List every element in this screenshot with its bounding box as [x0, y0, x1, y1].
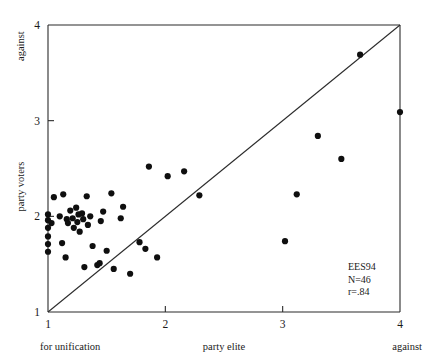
data-point: [51, 194, 57, 200]
data-point: [146, 163, 152, 169]
data-point: [196, 192, 202, 198]
plot-canvas: 12341234party votersparty eliteagainstfo…: [0, 0, 427, 364]
data-point: [79, 210, 85, 216]
y-axis-tick-label: 3: [34, 115, 40, 127]
scatter-plot-figure: 12341234party votersparty eliteagainstfo…: [0, 0, 427, 364]
data-point: [67, 207, 73, 213]
data-point: [181, 168, 187, 174]
data-point: [97, 260, 103, 266]
data-point: [81, 264, 87, 270]
x-axis-left-end-label: for unification: [40, 341, 101, 352]
data-point: [142, 246, 148, 252]
y-axis-tick-label: 2: [34, 210, 40, 222]
data-point: [100, 208, 106, 214]
data-point: [154, 254, 160, 260]
data-point: [104, 248, 110, 254]
data-point: [315, 133, 321, 139]
x-axis-title: party elite: [203, 341, 246, 352]
data-point: [87, 213, 93, 219]
data-point: [111, 266, 117, 272]
data-point: [120, 204, 126, 210]
data-point: [338, 156, 344, 162]
x-axis-tick-label: 4: [397, 318, 403, 330]
annotation-line: EES94: [348, 261, 376, 272]
y-axis-title: party voters: [15, 162, 26, 212]
data-point: [98, 218, 104, 224]
data-point: [108, 190, 114, 196]
x-axis-tick-label: 2: [162, 318, 168, 330]
data-point: [397, 109, 403, 115]
data-point: [65, 220, 71, 226]
data-point: [136, 239, 142, 245]
annotation-line: N=46: [348, 274, 371, 285]
data-point: [80, 216, 86, 222]
data-point: [48, 220, 54, 226]
data-point: [357, 52, 363, 58]
data-point: [45, 233, 51, 239]
data-point: [89, 243, 95, 249]
x-axis-tick-label: 1: [45, 318, 51, 330]
y-axis-tick-label: 1: [34, 306, 40, 318]
x-axis-tick-label: 3: [280, 318, 286, 330]
x-axis-right-end-label: against: [392, 341, 422, 352]
data-point: [73, 205, 79, 211]
data-point: [84, 193, 90, 199]
data-point: [85, 222, 91, 228]
data-point: [127, 271, 133, 277]
annotation-line: r=.84: [348, 286, 369, 297]
data-point: [282, 238, 288, 244]
data-point: [74, 219, 80, 225]
data-point: [45, 249, 51, 255]
data-point: [63, 254, 69, 260]
data-point: [45, 241, 51, 247]
data-point: [77, 229, 83, 235]
data-point: [45, 211, 51, 217]
data-point-group: [45, 52, 403, 277]
data-point: [59, 240, 65, 246]
data-point: [165, 173, 171, 179]
y-axis-top-end-label: against: [15, 31, 26, 61]
data-point: [60, 191, 66, 197]
data-point: [57, 213, 63, 219]
data-point: [71, 225, 77, 231]
data-point: [118, 215, 124, 221]
data-point: [294, 191, 300, 197]
y-axis-tick-label: 4: [34, 19, 40, 31]
